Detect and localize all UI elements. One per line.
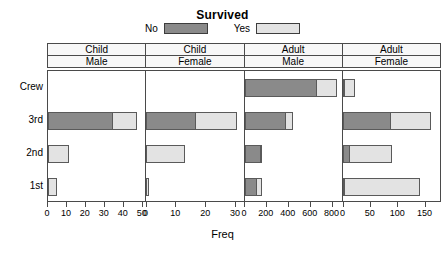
bar-segment-yes	[195, 112, 236, 130]
panel-plot-region	[245, 71, 342, 201]
legend: No Yes	[0, 23, 445, 34]
x-tick-label: 20	[200, 208, 210, 218]
bar-segment-no	[245, 112, 287, 130]
bar-segment-yes	[260, 145, 262, 163]
legend-swatch-no	[164, 23, 208, 34]
bar-segment-yes	[48, 178, 57, 196]
x-tick-label: 50	[365, 208, 375, 218]
panel-child-female	[146, 71, 244, 201]
x-tick-mark	[85, 202, 86, 207]
panel-child-male	[48, 71, 146, 201]
x-tick-mark	[332, 202, 333, 207]
x-tick-mark	[244, 202, 245, 207]
bar-1st	[245, 178, 264, 196]
x-axis-title: Freq	[0, 228, 445, 240]
x-tick-mark	[146, 202, 147, 207]
x-tick-label: 400	[280, 208, 295, 218]
x-tick-label: 0	[44, 208, 49, 218]
x-tick-label: 20	[80, 208, 90, 218]
panel-plot-region	[48, 71, 145, 201]
y-axis-labels: Crew3rd2nd1st	[0, 70, 43, 202]
x-tick-label: 150	[417, 208, 432, 218]
x-tick-mark	[397, 202, 398, 207]
bar-2nd	[48, 145, 69, 163]
x-tick-mark	[205, 202, 206, 207]
bar-3rd	[245, 112, 295, 130]
bar-segment-yes	[316, 79, 337, 97]
x-tick-mark	[370, 202, 371, 207]
bar-2nd	[343, 145, 393, 163]
bar-segment-no	[245, 79, 317, 97]
y-axis-label-1st: 1st	[0, 181, 43, 191]
x-tick-label: 0	[340, 208, 345, 218]
x-tick-mark	[343, 202, 344, 207]
y-axis-label-2nd: 2nd	[0, 148, 43, 158]
bar-segment-yes	[146, 145, 184, 163]
panel-adult-female	[343, 71, 440, 201]
x-tick-mark	[142, 202, 143, 207]
x-tick-label: 0	[241, 208, 246, 218]
x-tick-mark	[288, 202, 289, 207]
bar-segment-yes	[112, 112, 136, 130]
bar-segment-no	[48, 112, 113, 130]
x-axis-panel-adult-female: 050100150	[343, 202, 442, 224]
legend-label-no: No	[145, 23, 158, 34]
x-tick-label: 30	[230, 208, 240, 218]
plot-area	[47, 70, 441, 202]
bar-segment-no	[146, 112, 196, 130]
x-axis-panel-adult-male: 0200400600800	[244, 202, 343, 224]
x-tick-label: 10	[61, 208, 71, 218]
bar-segment-yes	[285, 112, 293, 130]
strip-sex-0: Male	[47, 55, 146, 68]
bar-segment-yes	[48, 145, 69, 163]
strip-row-sex: Male Female Male Female	[47, 56, 441, 68]
panel-strip-headers: Child Child Adult Adult Male Female Male…	[47, 43, 441, 68]
chart-title: Survived	[0, 8, 445, 22]
bar-3rd	[343, 112, 432, 130]
bar-segment-yes	[349, 145, 392, 163]
x-tick-mark	[266, 202, 267, 207]
bar-segment-yes	[146, 178, 149, 196]
legend-label-yes: Yes	[234, 23, 250, 34]
x-axis-panel-child-male: 01020304050	[47, 202, 146, 224]
x-tick-label: 600	[302, 208, 317, 218]
bar-segment-yes	[256, 178, 262, 196]
bar-1st	[146, 178, 149, 196]
x-axis-panel-child-female: 0102030	[146, 202, 245, 224]
bar-segment-no	[245, 145, 262, 163]
x-tick-mark	[310, 202, 311, 207]
bar-segment-yes	[390, 112, 431, 130]
legend-swatch-yes	[256, 23, 300, 34]
bar-2nd	[245, 145, 263, 163]
panel-plot-region	[146, 71, 243, 201]
bar-segment-no	[343, 112, 391, 130]
strip-sex-2: Male	[244, 55, 343, 68]
bar-segment-yes	[344, 79, 355, 97]
x-tick-mark	[235, 202, 236, 207]
x-tick-mark	[47, 202, 48, 207]
x-tick-mark	[175, 202, 176, 207]
bar-1st	[48, 178, 57, 196]
bar-3rd	[146, 112, 237, 130]
bar-segment-yes	[344, 178, 420, 196]
x-tick-label: 800	[324, 208, 339, 218]
x-tick-label: 200	[258, 208, 273, 218]
y-axis-label-3rd: 3rd	[0, 115, 43, 125]
strip-sex-1: Female	[145, 55, 244, 68]
x-axis: 0102030405001020300200400600800050100150	[47, 202, 441, 224]
legend-entry-no: No	[145, 23, 208, 34]
panel-adult-male	[245, 71, 343, 201]
legend-entry-yes: Yes	[234, 23, 300, 34]
barchart-figure: Survived No Yes Child Child Adult Adult …	[0, 0, 445, 256]
bar-crew	[245, 79, 338, 97]
panel-plot-region	[343, 71, 440, 201]
x-tick-mark	[123, 202, 124, 207]
x-tick-mark	[425, 202, 426, 207]
bar-crew	[343, 79, 355, 97]
x-tick-label: 0	[143, 208, 148, 218]
bar-2nd	[146, 145, 184, 163]
y-axis-label-crew: Crew	[0, 82, 43, 92]
bar-3rd	[48, 112, 138, 130]
x-tick-mark	[66, 202, 67, 207]
bar-1st	[343, 178, 421, 196]
